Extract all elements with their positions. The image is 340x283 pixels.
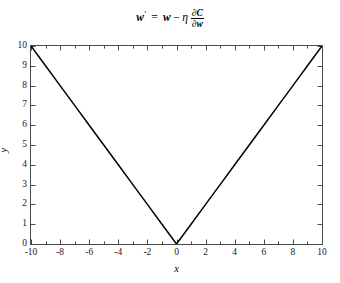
fraction-numerator: ∂C xyxy=(191,8,204,18)
x-tick-label: 6 xyxy=(261,248,266,258)
x-tick-label: 0 xyxy=(174,248,179,258)
y-tick-label: 9 xyxy=(22,61,27,71)
x-tick-label: -10 xyxy=(25,248,38,258)
title-w-prime-var: w xyxy=(136,11,144,23)
y-tick-label: 5 xyxy=(22,140,27,150)
fraction-denominator: ∂w xyxy=(191,18,204,29)
data-series-line xyxy=(31,46,322,244)
y-tick-label: 2 xyxy=(22,200,27,210)
y-axis-label: y xyxy=(0,148,10,153)
x-tick-label: -2 xyxy=(143,248,151,258)
title-minus-symbol: − xyxy=(171,11,183,23)
y-tick-label: 8 xyxy=(22,81,27,91)
title-eta-symbol: η xyxy=(182,11,188,23)
y-tick-label: 1 xyxy=(22,219,27,229)
y-axis-major-ticks-right xyxy=(318,47,323,245)
title-w-var: w xyxy=(163,11,171,23)
y-tick-label: 6 xyxy=(22,120,27,130)
title-prime-symbol: ′ xyxy=(144,9,146,19)
numerator-cost-var: C xyxy=(197,8,203,18)
title-partial-derivative-fraction: ∂C ∂w xyxy=(191,8,204,30)
title-equals-symbol: = xyxy=(149,11,161,23)
plot-canvas xyxy=(31,46,322,244)
x-tick-label: 2 xyxy=(203,248,208,258)
x-tick-label: -8 xyxy=(56,248,64,258)
y-tick-label: 3 xyxy=(22,180,27,190)
denominator-weight-var: w xyxy=(197,19,203,29)
tick-marks-group xyxy=(31,46,322,244)
x-tick-label: 8 xyxy=(291,248,296,258)
x-tick-label: 4 xyxy=(232,248,237,258)
x-tick-label: -4 xyxy=(114,248,122,258)
x-axis-label: x xyxy=(30,264,323,275)
x-tick-label: 10 xyxy=(317,248,327,258)
x-tick-label: -6 xyxy=(85,248,93,258)
y-tick-label: 0 xyxy=(22,239,27,249)
y-tick-label: 4 xyxy=(22,160,27,170)
y-tick-label: 10 xyxy=(18,41,28,51)
plot-title: w′ = w−η ∂C ∂w xyxy=(0,8,340,30)
y-tick-label: 7 xyxy=(22,101,27,111)
plot-area xyxy=(30,45,323,245)
y-axis-major-ticks-left xyxy=(31,47,36,245)
